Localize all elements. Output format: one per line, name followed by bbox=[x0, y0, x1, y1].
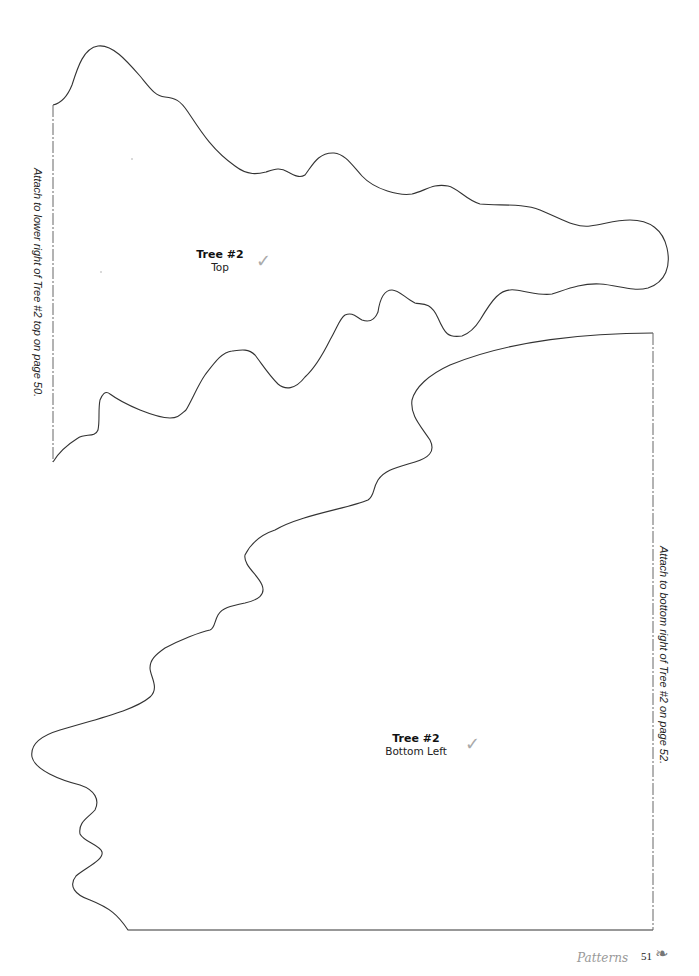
check-icon: ✓ bbox=[256, 250, 271, 271]
piece-subtitle: Bottom Left bbox=[376, 745, 456, 758]
footer-section-title: Patterns bbox=[577, 951, 628, 965]
tree-bottom-left-outline bbox=[32, 333, 653, 930]
piece-label-bottom-left: Tree #2 Bottom Left bbox=[376, 732, 456, 758]
piece-subtitle: Top bbox=[196, 261, 244, 274]
leaf-icon: ❧ bbox=[655, 944, 668, 963]
tree-top-outline bbox=[53, 46, 668, 462]
piece-title: Tree #2 bbox=[376, 732, 456, 745]
piece-label-top: Tree #2 Top bbox=[196, 248, 244, 274]
piece-title: Tree #2 bbox=[196, 248, 244, 261]
check-icon: ✓ bbox=[465, 733, 480, 754]
attach-note-left: Attach to lower right of Tree #2 top on … bbox=[32, 168, 44, 397]
pattern-outlines bbox=[0, 0, 699, 976]
page-number: 51 bbox=[641, 950, 652, 962]
attach-note-right: Attach to bottom right of Tree #2 on pag… bbox=[658, 546, 670, 764]
